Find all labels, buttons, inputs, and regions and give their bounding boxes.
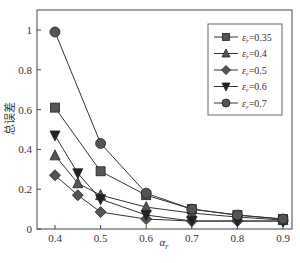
series-line — [55, 108, 283, 219]
y-tick-label: 0.2 — [18, 183, 32, 195]
legend: εr=0.35εr=0.4εr=0.5εr=0.6εr=0.7 — [208, 24, 282, 115]
x-tick-label: 0.7 — [185, 232, 199, 244]
x-tick-label: 0.4 — [48, 232, 62, 244]
series-triangle-up — [50, 150, 288, 225]
line-chart: 0.40.50.60.70.80.900.20.40.60.81 εr=0.35… — [0, 0, 300, 263]
y-tick-label: 0 — [27, 223, 33, 235]
square-marker-icon — [96, 167, 105, 176]
circle-marker-icon — [232, 210, 242, 220]
circle-marker-icon — [278, 214, 288, 224]
square-marker-icon — [223, 34, 230, 41]
series-line — [55, 135, 283, 221]
triangle-down-marker-icon — [50, 131, 60, 141]
y-tick-label: 0.6 — [18, 104, 32, 116]
circle-marker-icon — [50, 27, 60, 37]
square-marker-icon — [51, 103, 60, 112]
triangle-up-marker-icon — [50, 150, 60, 160]
x-axis-label: αr — [160, 236, 170, 251]
y-tick-label: 0.8 — [18, 64, 32, 76]
series-triangle-down — [50, 131, 288, 227]
series-line — [55, 175, 283, 221]
x-tick-label: 0.5 — [94, 232, 108, 244]
y-tick-label: 1 — [27, 24, 33, 36]
x-tick-label: 0.8 — [231, 232, 245, 244]
y-axis-label: 总误差 — [3, 102, 16, 135]
circle-marker-icon — [187, 204, 197, 214]
x-tick-label: 0.6 — [139, 232, 153, 244]
series-line — [55, 155, 283, 220]
x-tick-label: 0.9 — [276, 232, 290, 244]
circle-marker-icon — [141, 188, 151, 198]
circle-marker-icon — [222, 99, 230, 107]
diamond-marker-icon — [95, 207, 106, 218]
circle-marker-icon — [96, 138, 106, 148]
series-square — [51, 103, 288, 223]
y-tick-label: 0.4 — [18, 143, 32, 155]
